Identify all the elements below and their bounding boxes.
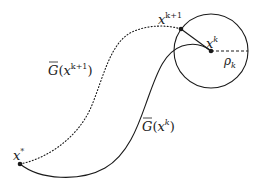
label-rho-k: ρk (223, 54, 236, 70)
diagram-canvas: x* xk xk+1 ρk G(xk+1) G(xk) (0, 0, 263, 184)
dotted-curve (20, 26, 181, 164)
label-solid-curve: G(xk) (142, 118, 175, 134)
label-x-k1: xk+1 (158, 11, 182, 27)
label-x-star: x* (13, 147, 24, 163)
label-dotted-curve: G(xk+1) (48, 62, 93, 78)
point-x-k1 (179, 27, 184, 32)
label-x-k: xk (206, 35, 218, 51)
svg-text:G(xk): G(xk) (142, 118, 175, 134)
svg-text:G(xk+1): G(xk+1) (48, 62, 93, 78)
